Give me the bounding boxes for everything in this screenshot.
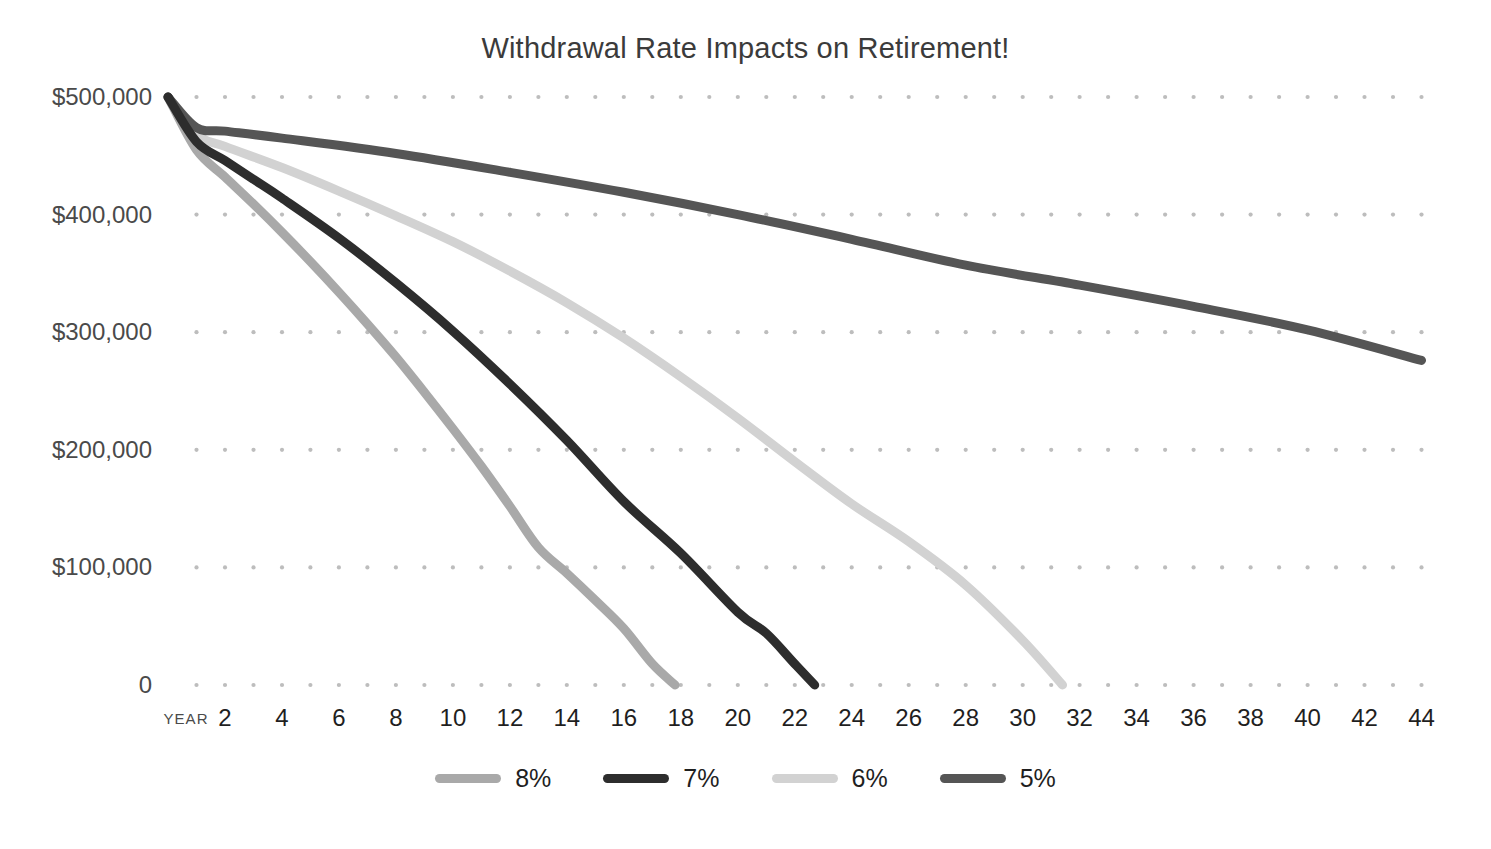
- grid-dot: [1078, 565, 1082, 569]
- chart-legend: 8%7%6%5%: [0, 766, 1491, 791]
- grid-dot: [308, 448, 312, 452]
- grid-dot: [508, 213, 512, 217]
- grid-dot: [878, 95, 882, 99]
- grid-dot: [1192, 565, 1196, 569]
- grid-dot: [1106, 213, 1110, 217]
- grid-dot: [1306, 95, 1310, 99]
- grid-dot: [1135, 448, 1139, 452]
- grid-dot: [1106, 95, 1110, 99]
- grid-dot: [1078, 330, 1082, 334]
- grid-dot: [194, 95, 198, 99]
- grid-dot: [280, 448, 284, 452]
- grid-dot: [1021, 448, 1025, 452]
- grid-dot: [1192, 330, 1196, 334]
- x-axis-tick-label: 10: [440, 704, 467, 731]
- grid-dot: [992, 330, 996, 334]
- grid-dot: [251, 448, 255, 452]
- grid-dot: [764, 95, 768, 99]
- grid-dot: [1106, 448, 1110, 452]
- grid-dot: [964, 330, 968, 334]
- grid-dot: [793, 683, 797, 687]
- grid-dot: [1362, 213, 1366, 217]
- grid-dot: [1306, 213, 1310, 217]
- grid-dot: [536, 330, 540, 334]
- legend-swatch-icon: [603, 774, 669, 783]
- grid-dot: [1078, 213, 1082, 217]
- grid-dot: [679, 448, 683, 452]
- grid-dot: [935, 448, 939, 452]
- grid-dot: [1419, 683, 1423, 687]
- grid-dot: [1249, 565, 1253, 569]
- grid-dot: [1135, 330, 1139, 334]
- grid-dot: [536, 565, 540, 569]
- grid-dot: [707, 448, 711, 452]
- series-line-6pct: [168, 97, 1063, 685]
- grid-dot: [536, 95, 540, 99]
- grid-dot: [337, 213, 341, 217]
- grid-dot: [1135, 683, 1139, 687]
- grid-dot: [1049, 683, 1053, 687]
- grid-dot: [850, 448, 854, 452]
- x-axis-tick-label: 32: [1066, 704, 1093, 731]
- grid-dot: [1049, 95, 1053, 99]
- grid-dot: [707, 330, 711, 334]
- grid-dot: [479, 330, 483, 334]
- grid-dot: [1135, 565, 1139, 569]
- grid-dot: [536, 213, 540, 217]
- grid-dot: [622, 213, 626, 217]
- grid-dot: [1163, 683, 1167, 687]
- grid-dot: [707, 683, 711, 687]
- grid-dot: [907, 95, 911, 99]
- grid-dot: [1135, 95, 1139, 99]
- grid-dot: [337, 330, 341, 334]
- legend-item[interactable]: 7%: [603, 766, 719, 791]
- grid-dot: [451, 95, 455, 99]
- legend-item[interactable]: 6%: [772, 766, 888, 791]
- grid-dot: [508, 330, 512, 334]
- legend-item[interactable]: 8%: [435, 766, 551, 791]
- grid-dot: [1277, 683, 1281, 687]
- grid-dot: [1391, 213, 1395, 217]
- grid-dot: [907, 683, 911, 687]
- grid-dot: [365, 448, 369, 452]
- grid-dot: [1249, 330, 1253, 334]
- grid-dot: [1362, 448, 1366, 452]
- grid-dot: [1419, 213, 1423, 217]
- x-axis-tick-label: 34: [1123, 704, 1150, 731]
- grid-dot: [1163, 95, 1167, 99]
- grid-dot: [850, 95, 854, 99]
- legend-item[interactable]: 5%: [940, 766, 1056, 791]
- grid-dot: [536, 683, 540, 687]
- grid-dot: [1106, 683, 1110, 687]
- grid-dot: [251, 95, 255, 99]
- grid-dot: [565, 95, 569, 99]
- grid-dot: [964, 448, 968, 452]
- x-axis-tick-label: 22: [781, 704, 808, 731]
- grid-dot: [593, 213, 597, 217]
- grid-dot: [992, 565, 996, 569]
- x-axis-tick-label: 36: [1180, 704, 1207, 731]
- grid-dot: [935, 683, 939, 687]
- grid-dot: [565, 330, 569, 334]
- grid-dot: [451, 683, 455, 687]
- grid-dot: [194, 213, 198, 217]
- grid-dot: [992, 213, 996, 217]
- grid-dot: [850, 565, 854, 569]
- grid-dot: [251, 683, 255, 687]
- grid-dot: [1021, 565, 1025, 569]
- grid-dot: [1192, 213, 1196, 217]
- grid-dot: [1334, 565, 1338, 569]
- grid-dot: [251, 213, 255, 217]
- grid-dot: [1220, 330, 1224, 334]
- grid-dot: [1306, 448, 1310, 452]
- grid-dot: [764, 565, 768, 569]
- grid-dot: [194, 448, 198, 452]
- grid-dot: [593, 330, 597, 334]
- grid-dot: [1306, 565, 1310, 569]
- x-axis-tick-label: 42: [1351, 704, 1378, 731]
- grid-dot: [1362, 683, 1366, 687]
- x-axis-tick-label: 44: [1408, 704, 1435, 731]
- grid-dot: [337, 683, 341, 687]
- grid-dot: [821, 330, 825, 334]
- grid-dot: [964, 95, 968, 99]
